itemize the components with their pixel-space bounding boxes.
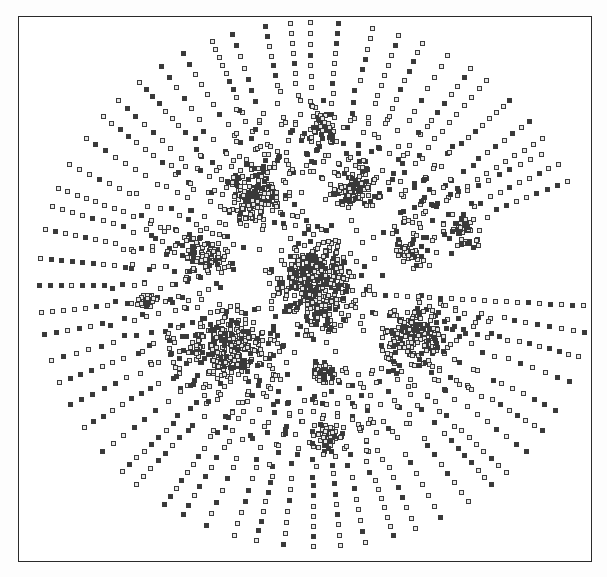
network-figure bbox=[0, 0, 607, 577]
network-graph-canvas bbox=[0, 0, 607, 577]
